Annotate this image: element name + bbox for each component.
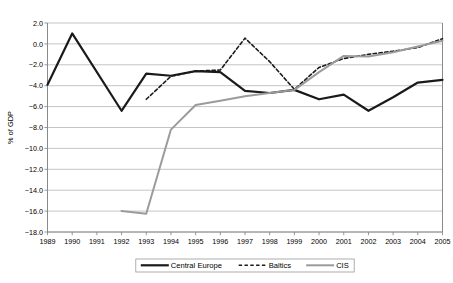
y-tick-label: −4.0 [29,81,43,90]
y-axis-title: % of GDP [6,111,15,144]
legend-label: CIS [336,261,349,270]
y-tick-label: −18.0 [25,228,43,237]
y-tick-label: 0.0 [33,40,43,49]
x-tick-label: 1989 [40,237,56,246]
x-tick-label: 1996 [212,237,228,246]
legend-label: Central Europe [171,261,222,270]
y-tick-label: −8.0 [29,123,43,132]
y-tick-label: 2.0 [33,19,43,28]
x-tick-label: 1991 [89,237,105,246]
x-tick-label: 1990 [64,237,80,246]
x-tick-label: 1995 [188,237,204,246]
x-tick-label: 1999 [286,237,302,246]
x-axis-tick-labels: 1989199019911992199319941995199619971998… [40,237,451,246]
chart-legend: Central EuropeBalticsCIS [136,259,354,272]
y-tick-label: −6.0 [29,102,43,111]
x-tick-label: 1997 [237,237,253,246]
legend-label: Baltics [269,261,292,270]
x-tick-label: 2000 [311,237,327,246]
y-tick-label: −14.0 [25,186,43,195]
y-tick-label: −12.0 [25,165,43,174]
x-tick-label: 1998 [262,237,278,246]
chart-container: 2.00.0−2.0−4.0−6.0−8.0−10.0−12.0−14.0−16… [0,0,453,283]
x-tick-label: 2001 [336,237,352,246]
x-tick-label: 2002 [360,237,376,246]
x-tick-label: 2004 [410,237,426,246]
gdp-line-chart: 2.00.0−2.0−4.0−6.0−8.0−10.0−12.0−14.0−16… [0,0,453,283]
y-tick-label: −10.0 [25,144,43,153]
x-tick-label: 2005 [435,237,451,246]
x-tick-label: 1994 [163,237,179,246]
x-tick-label: 2003 [385,237,401,246]
x-tick-label: 1993 [138,237,154,246]
x-tick-label: 1992 [114,237,130,246]
y-tick-label: −2.0 [29,60,43,69]
y-axis-title-text: % of GDP [6,111,15,144]
y-tick-label: −16.0 [25,207,43,216]
